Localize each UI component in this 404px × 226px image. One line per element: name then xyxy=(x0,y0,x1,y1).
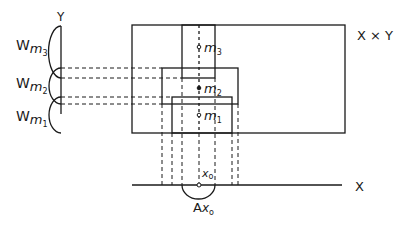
y-axis-label: Y xyxy=(56,10,65,24)
point-x0 xyxy=(197,183,201,187)
m3-label: m3 xyxy=(204,40,222,57)
neighborhood-m1-rect xyxy=(172,97,232,133)
x0-label: xo xyxy=(201,167,214,181)
a-x0-label: Axo xyxy=(193,200,214,217)
m2-label: m2 xyxy=(204,81,222,98)
product-space-label: X × Y xyxy=(357,28,393,43)
point-m3 xyxy=(197,45,201,49)
product-space-diagram: Y X X × Y Wm3 Wm2 Wm1 m3 m2 m1 xo Axo xyxy=(0,0,404,226)
point-m1 xyxy=(197,113,201,117)
w-m2-label: Wm2 xyxy=(16,75,48,96)
w-m3-label: Wm3 xyxy=(16,37,48,58)
m1-label: m1 xyxy=(204,108,222,125)
x-axis-label: X xyxy=(355,179,364,194)
point-m2 xyxy=(197,86,201,90)
w-m1-label: Wm1 xyxy=(16,108,48,129)
